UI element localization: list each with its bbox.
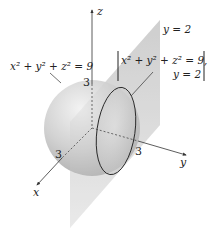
y-tick-3: 3 bbox=[135, 146, 142, 157]
sphere-plane-diagram: z y x 3 3 3 x² + y² + z² = 9 y = 2 x² + … bbox=[0, 0, 210, 233]
x-axis-label: x bbox=[33, 187, 39, 198]
x-tick-3: 3 bbox=[55, 149, 62, 160]
y-axis-label: y bbox=[180, 157, 186, 168]
z-axis-label: z bbox=[97, 6, 103, 17]
intersection-label-line2: y = 2 bbox=[173, 69, 201, 80]
plane-equation-label: y = 2 bbox=[163, 24, 191, 35]
sphere-equation-label: x² + y² + z² = 9 bbox=[10, 61, 93, 72]
intersection-label-line1: x² + y² + z² = 9, bbox=[121, 55, 207, 66]
z-tick-3: 3 bbox=[83, 77, 90, 88]
